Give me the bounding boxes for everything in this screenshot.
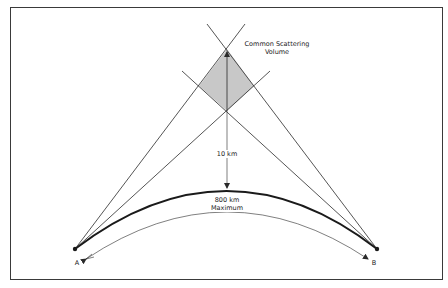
beam-b-upper (207, 24, 377, 249)
station-a-label: A (72, 259, 82, 267)
beam-b-lower (182, 71, 377, 249)
distance-label-line1: 800 km (200, 196, 254, 204)
scattering-volume-label-line2: Volume (232, 48, 322, 56)
station-a-marker (73, 247, 77, 251)
station-b-label: B (369, 259, 379, 267)
distance-label: 800 km Maximum (200, 196, 254, 212)
distance-arc (86, 212, 368, 259)
distance-label-line2: Maximum (200, 204, 254, 212)
common-scattering-volume (199, 49, 254, 111)
beam-a-lower (75, 71, 270, 249)
scattering-volume-label: Common Scattering Volume (232, 40, 322, 56)
scattering-volume-label-line1: Common Scattering (232, 40, 322, 48)
height-label: 10 km (210, 150, 244, 158)
station-b-marker (375, 247, 379, 251)
beam-a-upper (75, 24, 245, 249)
troposcatter-diagram (0, 0, 448, 288)
